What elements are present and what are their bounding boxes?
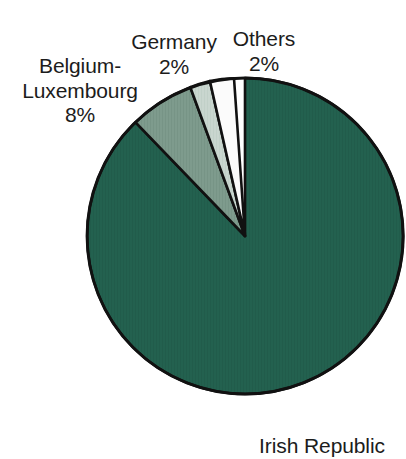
pie-chart-page: Belgium- Luxembourg 8% Germany 2% Others… [0, 0, 406, 459]
pie-label-germany-name: Germany [131, 30, 217, 53]
pie-label-irish-republic: Irish Republic 76% [238, 409, 406, 459]
pie-label-others: Others 2% [214, 2, 314, 101]
pie-label-irish-republic-name: Irish Republic [259, 434, 385, 457]
pie-label-germany: Germany 2% [122, 5, 226, 104]
pie-label-others-percent: 2% [214, 52, 314, 77]
pie-label-belgium-luxembourg-name: Belgium- Luxembourg [22, 54, 138, 102]
pie-label-others-name: Others [233, 27, 295, 50]
pie-label-germany-percent: 2% [122, 55, 226, 80]
pie-label-belgium-luxembourg-percent: 8% [4, 103, 156, 128]
